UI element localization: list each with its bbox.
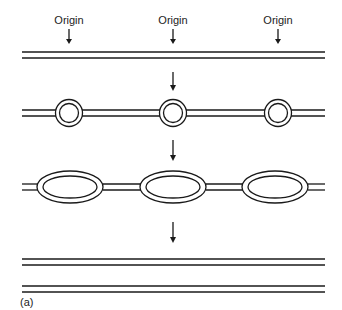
daughter-dna: [22, 259, 325, 292]
replication-diagram: [0, 0, 342, 310]
replication-bubbles: [22, 100, 325, 127]
origin-label-1: Origin: [54, 14, 83, 26]
origin-arrows: [69, 29, 278, 40]
figure-caption: (a): [20, 296, 33, 308]
origin-label-3: Origin: [263, 14, 292, 26]
expanded-bubbles: [22, 171, 325, 203]
origin-label-2: Origin: [158, 14, 187, 26]
parental-dna: [22, 52, 325, 58]
